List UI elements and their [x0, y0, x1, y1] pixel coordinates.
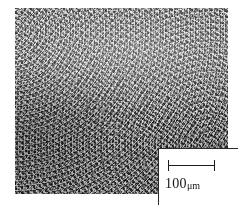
scale-bar-right-cap	[214, 160, 215, 171]
micrograph-figure: 100μm	[0, 0, 238, 205]
scale-bar-graphic	[168, 160, 215, 171]
scale-bar-rule	[168, 165, 215, 166]
scale-bar-legend-box: 100μm	[158, 148, 238, 205]
scale-bar-label: 100μm	[165, 176, 231, 193]
scale-bar-value: 100	[165, 176, 187, 191]
scale-bar-unit: μm	[187, 180, 200, 191]
